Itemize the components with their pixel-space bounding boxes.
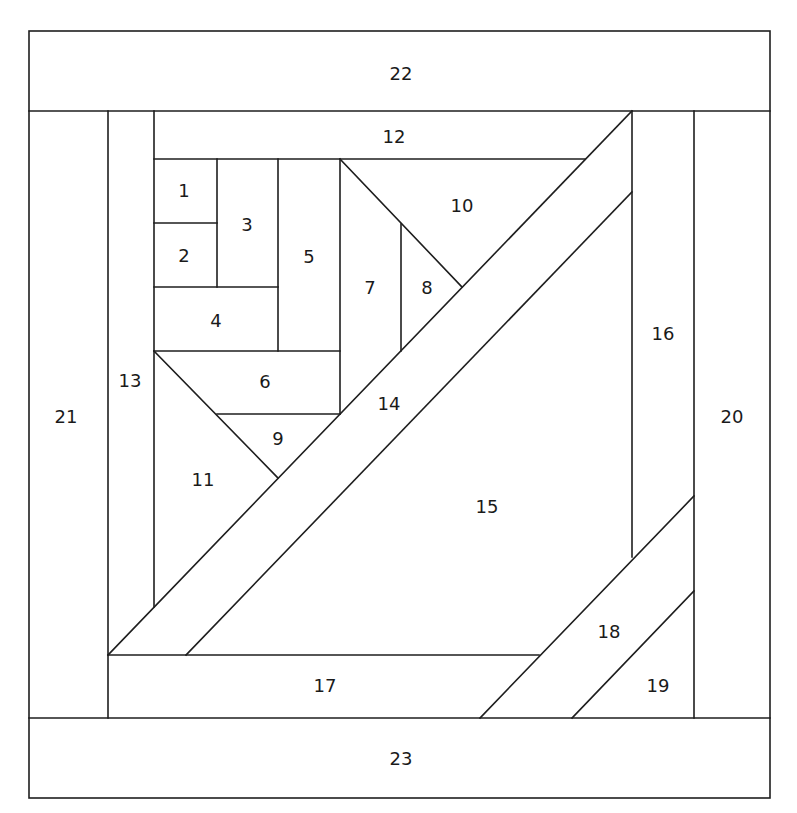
label-piece-20: 20	[721, 406, 744, 427]
label-piece-6: 6	[259, 371, 270, 392]
label-piece-12: 12	[383, 126, 406, 147]
label-piece-5: 5	[303, 246, 314, 267]
label-piece-8: 8	[421, 277, 432, 298]
piece-labels: 1 2 3 4 5 6 7 8 9 10 11 12 13 14 15 16 1…	[55, 63, 744, 769]
label-piece-4: 4	[210, 310, 221, 331]
label-piece-22: 22	[390, 63, 413, 84]
label-piece-23: 23	[390, 748, 413, 769]
label-piece-17: 17	[314, 675, 337, 696]
label-piece-15: 15	[476, 496, 499, 517]
pattern-lines: 1 2 3 4 5 6 7 8 9 10 11 12 13 14 15 16 1…	[0, 0, 797, 813]
label-piece-3: 3	[241, 214, 252, 235]
label-piece-9: 9	[272, 428, 283, 449]
label-piece-2: 2	[178, 245, 189, 266]
label-piece-11: 11	[192, 469, 215, 490]
label-piece-18: 18	[598, 621, 621, 642]
label-piece-14: 14	[378, 393, 401, 414]
quilt-block-diagram: 1 2 3 4 5 6 7 8 9 10 11 12 13 14 15 16 1…	[0, 0, 797, 813]
label-piece-21: 21	[55, 406, 78, 427]
edge-14-lower	[186, 192, 632, 655]
label-piece-10: 10	[451, 195, 474, 216]
label-piece-7: 7	[364, 277, 375, 298]
label-piece-13: 13	[119, 370, 142, 391]
label-piece-19: 19	[647, 675, 670, 696]
label-piece-16: 16	[652, 323, 675, 344]
label-piece-1: 1	[178, 180, 189, 201]
edge-19-upper	[572, 591, 694, 718]
